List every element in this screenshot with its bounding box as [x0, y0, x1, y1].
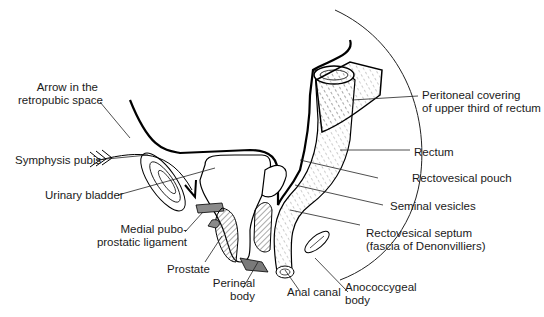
label-line: Peritoneal covering	[422, 89, 541, 102]
label-prostate: Prostate	[167, 263, 210, 276]
label-line: Perineal	[210, 277, 255, 290]
label-rectovesical-pouch: Rectovesical pouch	[412, 172, 512, 185]
anal-canal	[276, 266, 294, 278]
label-rectum: Rectum	[414, 146, 454, 159]
label-rectovesical-septum: Rectovesical septum (fascia of Denonvill…	[366, 227, 486, 253]
seminal-vesicles	[254, 203, 272, 252]
label-line: body	[345, 294, 417, 307]
label-line: retropubic space	[18, 94, 98, 107]
label-peritoneal-covering: Peritoneal covering of upper third of re…	[422, 89, 541, 115]
label-anococcygeal-body: Anococcygeal body	[345, 281, 417, 307]
label-symphysis-pubis: Symphysis pubis	[15, 154, 101, 167]
label-anal-canal: Anal canal	[287, 286, 341, 299]
label-urinary-bladder: Urinary bladder	[45, 189, 124, 202]
label-medial-puboprostatic: Medial pubo- prostatic ligament	[82, 223, 187, 249]
label-line: (fascia of Denonvilliers)	[366, 240, 486, 253]
label-arrow-retropubic: Arrow in the retropubic space	[18, 81, 98, 107]
label-line: of upper third of rectum	[422, 102, 541, 115]
label-line: body	[210, 290, 255, 303]
label-seminal-vesicles: Seminal vesicles	[390, 200, 476, 213]
perineal-body	[240, 258, 268, 272]
label-line: Arrow in the	[18, 81, 98, 94]
label-line: Anococcygeal	[345, 281, 417, 294]
label-line: Rectovesical septum	[366, 227, 486, 240]
label-line: prostatic ligament	[82, 236, 187, 249]
label-line: Medial pubo-	[82, 223, 187, 236]
symphysis-pubis	[133, 147, 193, 218]
label-perineal-body: Perineal body	[210, 277, 255, 303]
